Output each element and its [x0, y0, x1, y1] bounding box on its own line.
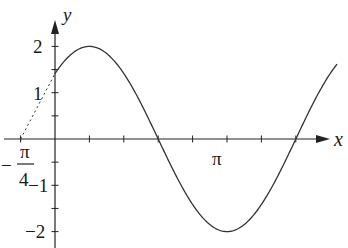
y-label-neg1: −1	[28, 175, 48, 196]
y-label-1: 1	[33, 83, 43, 104]
y-label-neg2: −2	[25, 221, 45, 242]
neg-sign: −	[1, 155, 12, 176]
y-axis-label: y	[61, 4, 72, 25]
sine-graph: y x π 2 1 −1 −2 − π 4	[0, 0, 348, 248]
fraction-numerator-pi: π	[20, 141, 30, 162]
fraction-denominator-4: 4	[19, 169, 29, 190]
y-axis-arrow-icon	[51, 20, 59, 34]
x-axis-label: x	[333, 128, 343, 150]
y-label-2: 2	[33, 36, 43, 57]
pi-label: π	[212, 148, 222, 169]
x-axis-arrow-icon	[316, 135, 330, 143]
